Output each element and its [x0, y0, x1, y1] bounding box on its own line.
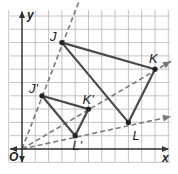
ray-through-j [22, 0, 87, 149]
vertex-j [59, 40, 64, 45]
vertex-j-prime [39, 93, 44, 98]
label-k: K [149, 51, 159, 66]
vertex-k [152, 67, 157, 72]
label-l: L [132, 128, 139, 143]
ray-arrow-icon [162, 115, 171, 122]
vertex-k-prime [86, 107, 91, 112]
label-j-prime: J' [28, 81, 39, 96]
vertex-l [126, 120, 131, 125]
x-axis-label: x [161, 151, 170, 165]
dilation-rays [22, 0, 171, 149]
y-axis-arrow-icon [19, 11, 25, 18]
label-k-prime: K' [83, 92, 95, 107]
label-l-prime: L' [72, 138, 82, 153]
dilation-diagram: JKLJ'K'L'yxO [0, 0, 178, 174]
y-axis-label: y [26, 8, 35, 22]
label-j: J [49, 29, 57, 44]
origin-label: O [9, 150, 19, 164]
ray-through-l [22, 116, 171, 149]
